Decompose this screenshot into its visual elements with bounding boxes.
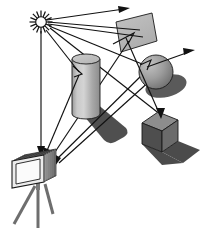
scene-canvas	[0, 0, 202, 232]
sun-starburst-icon	[30, 11, 53, 34]
ray-escaping-top	[47, 9, 124, 20]
camera	[12, 149, 56, 228]
cylinder	[72, 54, 100, 119]
tripod-leg-right	[45, 184, 53, 214]
ray-tracing-diagram	[0, 0, 202, 232]
sun-core	[36, 17, 47, 28]
arrowhead-escaping-right	[183, 48, 195, 55]
mirror	[116, 13, 157, 52]
arrowhead-escaping-top	[118, 6, 130, 13]
tripod-leg-left	[14, 186, 35, 224]
cylinder-top-face	[72, 54, 100, 64]
mirror-face	[116, 13, 157, 52]
light-source	[30, 11, 53, 34]
